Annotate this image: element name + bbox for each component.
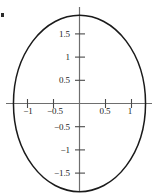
y-tick-label-neg1-5: −1.5: [54, 169, 70, 178]
x-tick-label-neg0-5: −0.5: [47, 107, 63, 116]
y-tick-label-1: 1: [66, 53, 70, 62]
y-tick-label-neg1: −1: [61, 146, 70, 155]
ellipse-plot-figure: −1 −0.5 0.5 1 1.5 1 0.5 −0.5 −1 −1.5: [0, 0, 157, 196]
y-tick-label-0-5: 0.5: [59, 76, 70, 85]
y-tick-label-1-5: 1.5: [59, 30, 70, 39]
x-tick-label-neg1: −1: [23, 107, 32, 116]
plot-canvas: [0, 0, 157, 196]
y-tick-label-neg0-5: −0.5: [54, 123, 70, 132]
x-tick-label-1: 1: [128, 107, 132, 116]
x-tick-label-0-5: 0.5: [100, 107, 111, 116]
